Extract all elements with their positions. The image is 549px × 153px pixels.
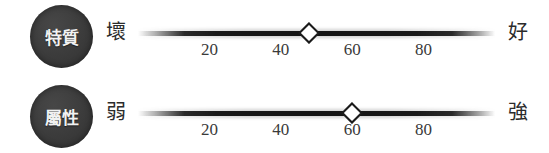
- tick-label: 60: [344, 121, 361, 138]
- rating-scale-panel: 特質 壞 20 40 60 80 好 屬性 弱: [0, 0, 549, 153]
- slider-track[interactable]: [138, 111, 495, 116]
- rating-row-trait: 特質 壞 20 40 60 80 好: [0, 0, 549, 76]
- right-anchor-label: 好: [508, 22, 528, 42]
- badge-label: 屬性: [30, 85, 93, 148]
- attribute-badge-icon: 屬性: [30, 85, 93, 148]
- slider-track-area[interactable]: 20 40 60 80: [138, 80, 495, 153]
- tick-label: 80: [415, 41, 432, 58]
- slider-track-area[interactable]: 20 40 60 80: [138, 0, 495, 76]
- diamond-slider-handle-icon[interactable]: [298, 22, 320, 44]
- tick-label: 40: [272, 121, 289, 138]
- trait-badge-icon: 特質: [30, 5, 93, 68]
- tick-label: 20: [201, 41, 218, 58]
- left-anchor-label: 弱: [106, 102, 126, 122]
- tick-label: 80: [415, 121, 432, 138]
- tick-label: 40: [272, 41, 289, 58]
- right-anchor-label: 強: [508, 102, 528, 122]
- badge-label: 特質: [30, 5, 93, 68]
- tick-label: 60: [344, 41, 361, 58]
- tick-label: 20: [201, 121, 218, 138]
- rating-row-attribute: 屬性 弱 20 40 60 80 強: [0, 80, 549, 153]
- left-anchor-label: 壞: [106, 22, 126, 42]
